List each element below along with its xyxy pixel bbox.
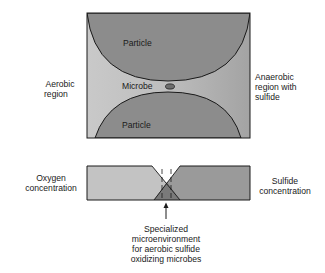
caption-line1: Specialized [116, 224, 216, 234]
anaerobic-line2: region with [255, 82, 297, 92]
anaerobic-region-label: Anaerobic region with sulfide [255, 72, 297, 102]
oxygen-line1: Oxygen [18, 173, 84, 183]
sulfide-line1: Sulfide [252, 176, 318, 186]
caption-line2: microenvironment [116, 234, 216, 244]
microbe-label: Microbe [122, 81, 153, 91]
concentration-bar [87, 166, 250, 200]
particle-bottom-label: Particle [122, 120, 151, 130]
microenvironment-caption: Specialized microenvironment for aerobic… [116, 224, 216, 264]
anaerobic-line3: sulfide [255, 92, 297, 102]
oxygen-line2: concentration [18, 183, 84, 193]
aerobic-line2: region [40, 89, 80, 99]
anaerobic-line1: Anaerobic [255, 72, 297, 82]
oxygen-concentration-label: Oxygen concentration [18, 173, 84, 193]
caption-line4: oxidizing microbes [116, 254, 216, 264]
microbe-icon [166, 84, 175, 89]
sulfide-concentration-label: Sulfide concentration [252, 176, 318, 196]
particle-top-label: Particle [123, 38, 152, 48]
aerobic-line1: Aerobic [40, 79, 80, 89]
arrow-up-icon [164, 203, 169, 220]
sulfide-line2: concentration [252, 186, 318, 196]
caption-line3: for aerobic sulfide [116, 244, 216, 254]
aerobic-region-label: Aerobic region [40, 79, 80, 99]
